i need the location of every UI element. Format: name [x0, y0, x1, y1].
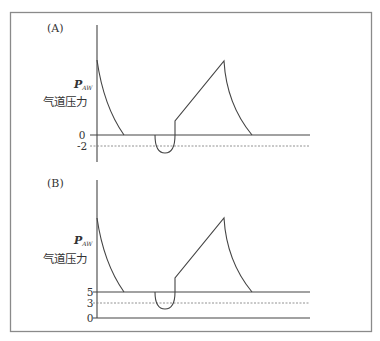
- panel-a-label: (A): [47, 22, 64, 35]
- panel-a-ylabel: 气道压力: [43, 95, 87, 109]
- panel-b-tick-0: 0: [87, 312, 94, 324]
- panel-b-label: (B): [47, 177, 64, 190]
- panel-b-p-symbol: PAW: [73, 234, 93, 247]
- figure-frame: [11, 13, 372, 332]
- panel-a: (A) PAW 气道压力 0 -2: [43, 22, 310, 162]
- panel-a-breath-waveform: [155, 61, 252, 153]
- panel-b-decay-1: [97, 218, 124, 292]
- panel-b-breath-waveform: [155, 218, 252, 309]
- panel-b: (B) PAW 气道压力 5 3 0: [43, 177, 310, 324]
- panel-b-ylabel: 气道压力: [43, 252, 87, 266]
- panel-a-tick-neg2: -2: [77, 140, 87, 152]
- panel-a-decay-1: [97, 60, 124, 135]
- airway-pressure-figure: (A) PAW 气道压力 0 -2 (B) PAW 气道压力 5 3 0: [0, 0, 380, 341]
- panel-a-p-symbol: PAW: [73, 78, 93, 91]
- panel-b-tick-3: 3: [87, 297, 94, 309]
